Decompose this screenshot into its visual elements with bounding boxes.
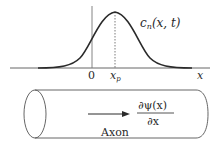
axon-label: Axon [100, 126, 129, 139]
direction-arrow [88, 111, 130, 117]
curve-label: cn(x, t) [140, 16, 181, 31]
axon-left-end [24, 90, 46, 138]
diagram-canvas: cn(x, t) 0 xp x ∂ψ(x) ∂x Axon [0, 0, 220, 149]
derivative-numerator: ∂ψ(x) [138, 99, 167, 112]
peak-label: xp [110, 69, 121, 83]
axon-right-end [196, 90, 208, 138]
derivative-denominator: ∂x [147, 115, 160, 128]
origin-label: 0 [88, 69, 95, 82]
x-axis-label: x [197, 69, 204, 82]
